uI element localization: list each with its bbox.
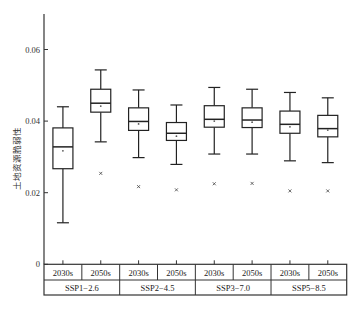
outlier-marker: [213, 182, 216, 185]
outlier-marker: [288, 189, 291, 192]
scenario-label: SSP3−7.0: [216, 283, 250, 293]
mean-marker: [100, 105, 102, 107]
iqr-box: [242, 108, 262, 128]
box-SSP1−2.6-2030s: [53, 107, 73, 223]
period-label: 2030s: [128, 268, 148, 278]
box-SSP2−4.5-2030s: [129, 90, 149, 188]
period-label: 2050s: [242, 268, 262, 278]
iqr-box: [129, 108, 149, 131]
mean-marker: [327, 129, 329, 131]
iqr-box: [53, 128, 73, 169]
mean-marker: [138, 123, 140, 125]
boxplot-chart: 00.020.040.06 2030s2050s2030s2050s2030s2…: [0, 0, 358, 311]
period-label: 2050s: [166, 268, 186, 278]
outlier-marker: [251, 182, 254, 185]
mean-marker: [251, 121, 253, 123]
box-SSP3−7.0-2030s: [204, 87, 224, 185]
mean-marker: [176, 135, 178, 137]
mean-marker: [213, 120, 215, 122]
outlier-marker: [137, 185, 140, 188]
outlier-marker: [99, 172, 102, 175]
iqr-box: [91, 89, 111, 112]
outlier-marker: [175, 188, 178, 191]
period-label: 2050s: [318, 268, 338, 278]
iqr-box: [204, 106, 224, 127]
y-axis-label: 土地资源脆弱性: [12, 127, 22, 190]
outlier-marker: [326, 189, 329, 192]
iqr-box: [166, 123, 186, 141]
mean-marker: [289, 126, 291, 128]
y-tick-label: 0.06: [25, 45, 40, 55]
box-SSP5−8.5-2050s: [318, 98, 338, 193]
scenario-label: SSP1−2.6: [65, 283, 99, 293]
period-label: 2030s: [280, 268, 300, 278]
y-tick-label: 0.02: [25, 188, 40, 198]
y-tick-label: 0: [36, 259, 40, 269]
iqr-box: [280, 111, 300, 133]
scenario-label: SSP2−4.5: [141, 283, 175, 293]
period-label: 2030s: [53, 268, 73, 278]
scenario-label: SSP5−8.5: [292, 283, 326, 293]
iqr-box: [318, 115, 338, 136]
period-label: 2030s: [204, 268, 224, 278]
period-label: 2050s: [91, 268, 111, 278]
y-axis: 00.020.040.06: [25, 14, 48, 269]
x-category-table: 2030s2050s2030s2050s2030s2050s2030s2050s…: [44, 260, 347, 295]
box-SSP2−4.5-2050s: [166, 105, 186, 191]
box-series: [53, 70, 338, 223]
box-SSP1−2.6-2050s: [91, 70, 111, 175]
box-SSP5−8.5-2030s: [280, 92, 300, 192]
mean-marker: [62, 150, 64, 152]
box-SSP3−7.0-2050s: [242, 89, 262, 185]
y-tick-label: 0.04: [25, 116, 41, 126]
